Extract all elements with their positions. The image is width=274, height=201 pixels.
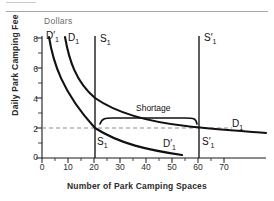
label-s1-prime-top: S′1 [204, 32, 216, 45]
plot-canvas [0, 0, 274, 201]
label-s1-top: S1 [100, 33, 111, 46]
label-d1-prime-top: D′1 [46, 30, 59, 43]
chart-figure: Dollars Daily Park Camping Fee Number of… [0, 0, 274, 201]
label-d1-top: D1 [68, 32, 79, 45]
label-shortage: Shortage [136, 103, 171, 113]
label-s1-bottom: S1 [97, 136, 108, 149]
y-major-ticks [36, 38, 42, 158]
label-d1-prime-bottom: D′1 [163, 138, 176, 151]
label-d1-right: D1 [232, 118, 243, 131]
label-s1-prime-bottom: S′1 [202, 136, 214, 149]
